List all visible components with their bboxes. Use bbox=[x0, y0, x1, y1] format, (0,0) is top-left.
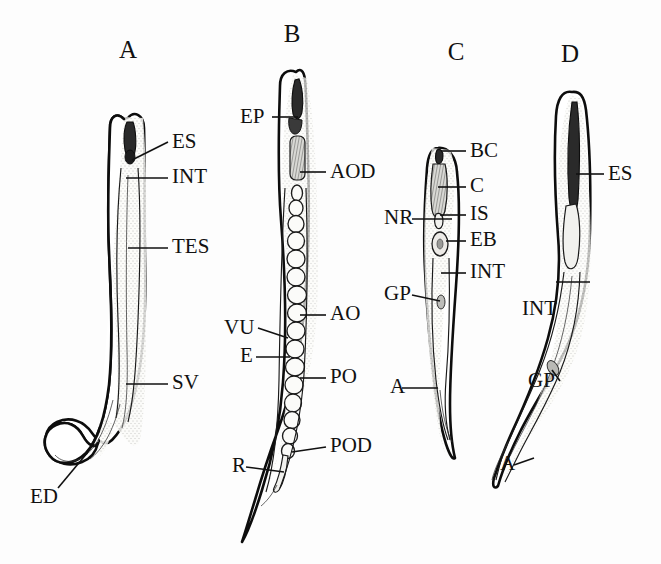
egg bbox=[288, 304, 307, 322]
egg bbox=[289, 200, 303, 216]
egg bbox=[288, 216, 304, 233]
worm-b-anterior-oviduct bbox=[290, 136, 305, 180]
worm-d-esophagus bbox=[568, 102, 579, 213]
label-c-bc: BC bbox=[470, 138, 498, 162]
worm-a-esophageal-bulb bbox=[125, 150, 135, 164]
worm-d-esophageal-bulb bbox=[563, 204, 580, 269]
figure-plate: A bbox=[0, 0, 661, 564]
label-b-e: E bbox=[240, 343, 253, 367]
worm-b-stoma bbox=[292, 79, 303, 119]
label-d-es: ES bbox=[608, 161, 633, 185]
egg bbox=[288, 232, 305, 250]
nematode-anatomy-plate: A bbox=[0, 0, 661, 564]
egg bbox=[287, 250, 305, 268]
egg bbox=[287, 322, 305, 340]
egg bbox=[292, 185, 303, 201]
worm-c-bulb-valve bbox=[437, 239, 443, 249]
label-d-int: INT bbox=[522, 296, 557, 320]
label-c-c: C bbox=[470, 173, 484, 197]
panel-letter-b: B bbox=[284, 20, 301, 47]
label-b-pod: POD bbox=[330, 433, 372, 457]
worm-c-corpus bbox=[431, 164, 447, 218]
egg bbox=[288, 286, 307, 304]
label-b-ep: EP bbox=[240, 104, 265, 128]
egg bbox=[286, 340, 304, 358]
worm-c-genital-primordium bbox=[437, 295, 445, 309]
panel-letter-c: C bbox=[448, 38, 465, 65]
label-b-r: R bbox=[232, 453, 246, 477]
egg bbox=[285, 394, 302, 412]
label-d-gp: GP bbox=[528, 368, 555, 392]
label-c-a: A bbox=[390, 374, 406, 398]
egg bbox=[286, 358, 305, 376]
label-d-a: A bbox=[500, 451, 516, 475]
label-c-int: INT bbox=[470, 259, 505, 283]
egg bbox=[287, 268, 305, 286]
label-b-ao: AO bbox=[330, 301, 360, 325]
panel-letter-d: D bbox=[561, 40, 579, 67]
label-a-int: INT bbox=[172, 164, 207, 188]
label-c-is: IS bbox=[470, 201, 489, 225]
label-c-gp: GP bbox=[384, 281, 411, 305]
panel-letter-a: A bbox=[119, 36, 137, 63]
label-a-es: ES bbox=[172, 129, 197, 153]
label-b-vu: VU bbox=[224, 315, 254, 339]
label-a-ed: ED bbox=[30, 484, 58, 508]
label-c-eb: EB bbox=[470, 227, 497, 251]
label-c-nr: NR bbox=[384, 205, 413, 229]
label-b-po: PO bbox=[330, 364, 357, 388]
label-a-tes: TES bbox=[172, 234, 209, 258]
label-b-aod: AOD bbox=[330, 159, 376, 183]
label-a-sv: SV bbox=[172, 370, 199, 394]
